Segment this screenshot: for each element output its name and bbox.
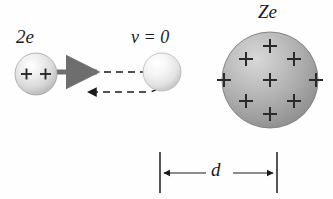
alpha-charge-label: 2e: [16, 27, 34, 46]
scattering-figure: 2e v = 0 Ze d: [0, 0, 333, 199]
nucleus-charge-label: Ze: [258, 2, 277, 21]
nucleus: [217, 32, 323, 128]
alpha-particle-incoming: [15, 53, 57, 95]
distance-label: d: [211, 160, 221, 179]
alpha-particle-at-rest: [143, 53, 181, 91]
velocity-zero-label: v = 0: [131, 28, 169, 46]
